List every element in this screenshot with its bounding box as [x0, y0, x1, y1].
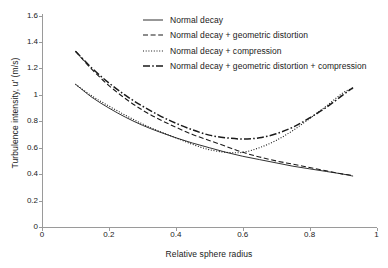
- x-axis-title-text: Relative sphere radius: [166, 249, 253, 259]
- legend-item-label: Normal decay: [170, 15, 223, 25]
- x-axis-title: Relative sphere radius: [42, 249, 376, 259]
- legend-item-label: Normal decay + geometric distortion + co…: [170, 61, 367, 71]
- legend-item: Normal decay: [143, 12, 367, 28]
- legend-key-dashed-icon: [143, 30, 163, 40]
- legend-item-label: Normal decay + geometric distortion: [170, 30, 308, 40]
- legend-key-dotted-icon: [143, 46, 163, 56]
- chart-legend: Normal decayNormal decay + geometric dis…: [143, 12, 367, 74]
- chart-figure: Turbulence intensity, u′ (m/s) 00.20.40.…: [0, 0, 388, 268]
- legend-item-label: Normal decay + compression: [170, 46, 282, 56]
- legend-item: Normal decay + compression: [143, 43, 367, 59]
- legend-key-solid-icon: [143, 15, 163, 25]
- legend-item: Normal decay + geometric distortion + co…: [143, 59, 367, 75]
- legend-item: Normal decay + geometric distortion: [143, 28, 367, 44]
- series-line: [75, 84, 353, 176]
- legend-key-dashdot-icon: [143, 61, 163, 71]
